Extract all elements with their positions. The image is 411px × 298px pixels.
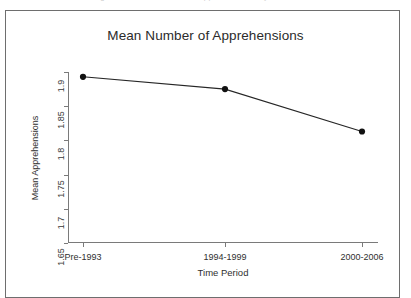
- clipped-caption-text: Figure 3. Mean Number of Apprehensions b…: [93, 0, 318, 1]
- x-tick-label: Pre-1993: [64, 252, 101, 262]
- x-tick: Pre-1993: [83, 243, 84, 247]
- x-tick: 2000-2006: [362, 243, 363, 247]
- x-axis-title: Time Period: [198, 267, 249, 278]
- x-tick: 1994-1999: [225, 243, 226, 247]
- data-point-marker: [359, 128, 365, 134]
- y-tick-label: 1.7: [56, 208, 66, 238]
- data-point-marker: [222, 86, 228, 92]
- y-tick-label: 1.9: [56, 71, 66, 101]
- y-tick-label: 1.85: [56, 105, 66, 135]
- data-point-marker: [80, 74, 86, 80]
- y-tick: 1.65: [64, 243, 68, 244]
- y-tick-label: 1.8: [56, 139, 66, 169]
- series-markers: [80, 74, 365, 135]
- y-tick-label: 1.75: [56, 174, 66, 204]
- clipped-caption-strip: Figure 3. Mean Number of Apprehensions b…: [0, 0, 411, 7]
- x-tick-label: 2000-2006: [340, 252, 383, 262]
- chart-title: Mean Number of Apprehensions: [0, 28, 411, 43]
- plot-area: 1.651.71.751.81.851.9 Pre-19931994-19992…: [68, 72, 378, 243]
- series-line: [83, 77, 362, 132]
- x-tick-label: 1994-1999: [203, 252, 246, 262]
- y-axis-title: Mean Apprehensions: [30, 116, 40, 201]
- series-plot: [68, 72, 378, 243]
